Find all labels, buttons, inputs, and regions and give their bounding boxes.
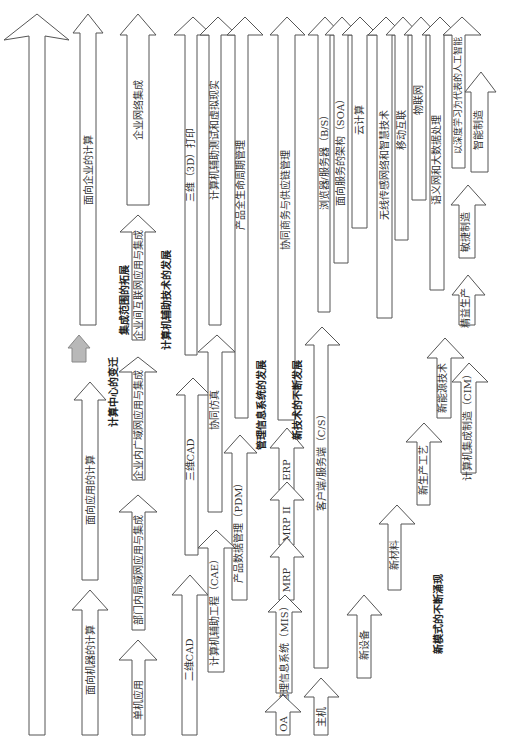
label-2d-cad: 二维CAD <box>183 639 195 682</box>
section-label-computing-center: 计算中心的变迁 <box>107 357 119 427</box>
arrow-plm: 产品全生命周期管理 <box>227 17 263 418</box>
label-3d-cad: 三维CAD <box>184 439 196 482</box>
label-cs: 客户端/服务端（C/S） <box>315 409 327 510</box>
arrow-agile-manufacturing: 敏捷制造 <box>451 185 486 258</box>
label-enterprise-computing: 面向企业的计算 <box>82 135 94 205</box>
section-label-new-mode: 新模式的不断涌现 <box>432 574 444 654</box>
technology-evolution-diagram: 面向企业的计算 面向应用的计算 面向机器的计算 企业网络集成 企业间互联网应用与… <box>0 0 509 740</box>
arrow-intra-enterprise-wan: 企业内广域网应用与集成 <box>119 357 157 480</box>
label-mis: 管理信息系统（MIS） <box>278 601 290 702</box>
section-label-new-tech: 新技术的不断发展 <box>291 360 303 440</box>
arrow-new-material: 新材料 <box>379 505 415 590</box>
label-inter-enterprise-internet: 企业间互联网应用与集成 <box>132 230 144 340</box>
label-cloud: 云计算 <box>353 105 365 135</box>
label-3d-printing: 三维（3D）打印 <box>184 128 196 202</box>
arrow-new-process: 新生产工艺 <box>406 423 442 505</box>
gray-up-arrow-icon <box>68 335 90 362</box>
label-machine-computing: 面向机器的计算 <box>84 625 96 695</box>
arrow-mrp-ii: MRP II <box>270 482 304 545</box>
arrow-supply-chain: 协同商务与供应链管理 <box>270 17 305 420</box>
arrow-pdm: 产品数据管理（PDM） <box>224 435 257 600</box>
label-cat-vr: 计算机辅助测试和虚拟现实 <box>208 80 220 200</box>
arrow-cae: 计算机辅助工程（CAE） <box>198 530 235 672</box>
label-enterprise-network-integration: 企业网络集成 <box>132 80 144 140</box>
label-soa: 面向服务的架构（SOA） <box>334 94 346 206</box>
label-cae: 计算机辅助工程（CAE） <box>208 554 220 666</box>
label-supply-chain: 协同商务与供应链管理 <box>279 150 291 250</box>
section-label-cax: 计算机辅助技术的发展 <box>160 250 172 350</box>
label-mobile-internet: 移动互联 <box>395 110 407 150</box>
arrow-2d-cad: 二维CAD <box>172 575 208 735</box>
label-iot: 物联网 <box>412 85 424 115</box>
arrow-enterprise-computing: 面向企业的计算 <box>73 14 103 325</box>
arrow-mrp: MRP <box>270 538 304 600</box>
label-deep-learning-ai: 以深度学习为代表的人工智能 <box>452 37 463 154</box>
label-mrp: MRP <box>281 567 292 592</box>
label-wsn: 无线传感网络和智慧技术 <box>378 110 390 220</box>
label-cim: 计算机集成制造（CIM） <box>461 369 473 481</box>
arrow-enterprise-network-integration: 企业网络集成 <box>120 14 156 205</box>
section-label-integration-scope: 集成范围的拓展 <box>118 265 130 336</box>
label-pdm: 产品数据管理（PDM） <box>232 478 244 583</box>
label-application-computing: 面向应用的计算 <box>84 455 96 525</box>
label-intra-enterprise-wan: 企业内广域网应用与集成 <box>132 370 144 480</box>
arrow-cs: 客户端/服务端（C/S） <box>305 327 340 668</box>
arrow-smart-manufacturing: 智能制造 <box>465 72 496 172</box>
arrow-cim: 计算机集成制造（CIM） <box>452 363 488 481</box>
label-semantic-bigdata: 语义网和大数据处理 <box>430 115 442 205</box>
label-new-equipment: 新设备 <box>358 630 370 660</box>
label-departmental-lan: 部门内局域网应用与集成 <box>132 515 144 625</box>
arrow-3d-cad: 三维CAD <box>176 378 210 555</box>
label-new-material: 新材料 <box>388 540 400 570</box>
arrow-collab-simulation: 协同仿真 <box>198 335 235 512</box>
arrow-oa: OA <box>265 695 301 735</box>
main-timeline-arrow <box>4 14 69 735</box>
arrow-cat-vr: 计算机辅助测试和虚拟现实 <box>200 17 237 325</box>
label-oa: OA <box>278 716 289 732</box>
label-lean-production: 精益生产 <box>459 288 471 328</box>
label-mainframe: 主机 <box>315 707 327 727</box>
arrow-application-computing: 面向应用的计算 <box>74 382 106 580</box>
label-smart-manufacturing: 智能制造 <box>472 110 484 150</box>
arrow-3d-printing: 三维（3D）打印 <box>174 17 212 355</box>
section-label-mis: 管理信息系统的发展 <box>255 360 267 450</box>
label-mrp-ii: MRP II <box>281 506 292 542</box>
arrow-machine-computing: 面向机器的计算 <box>72 590 108 735</box>
label-bs: 浏览器/服务器（B/S） <box>318 110 330 211</box>
label-plm: 产品全生命周期管理 <box>234 140 246 230</box>
label-new-process: 新生产工艺 <box>417 445 429 495</box>
arrow-mainframe: 主机 <box>304 678 339 735</box>
label-erp: ERP <box>281 459 292 481</box>
arrow-standalone-app: 单机应用 <box>119 640 157 735</box>
label-agile-manufacturing: 敏捷制造 <box>459 212 471 252</box>
label-collab-simulation: 协同仿真 <box>208 390 220 430</box>
arrow-new-equipment: 新设备 <box>347 595 382 678</box>
label-new-energy: 新能源技术 <box>436 363 448 413</box>
label-standalone-app: 单机应用 <box>132 680 144 720</box>
arrow-mis: 管理信息系统（MIS） <box>268 595 302 703</box>
arrow-departmental-lan: 部门内局域网应用与集成 <box>119 495 157 630</box>
arrow-lean-production: 精益生产 <box>452 275 485 328</box>
